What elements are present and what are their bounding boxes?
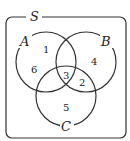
set-b-label: B: [100, 34, 111, 49]
venn-diagram: S A B C 1 6 4 3 2 5: [0, 0, 130, 141]
set-a-label: A: [19, 34, 29, 49]
universe-label: S: [30, 9, 39, 24]
region-a-only: 1: [43, 44, 49, 55]
set-c-label: C: [61, 119, 71, 134]
region-bc: 2: [79, 77, 85, 88]
region-c-only: 5: [63, 102, 69, 113]
region-b-only: 4: [91, 56, 97, 67]
region-a-only-2: 6: [31, 64, 37, 75]
region-abc: 3: [63, 70, 69, 81]
